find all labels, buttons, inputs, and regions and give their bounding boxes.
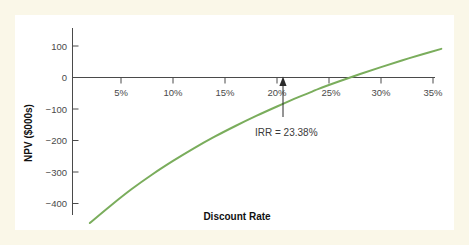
x-tick-marks [121, 78, 433, 84]
x-tick-labels: 5% 10% 15% 20% 25% 30% 35% [114, 87, 443, 98]
x-tick-label-30: 30% [371, 87, 391, 98]
npv-profile-figure: 100 0 −100 −200 −300 −400 5% 10% 15% [0, 0, 469, 245]
y-tick-label-100: 100 [51, 41, 67, 52]
x-axis-title: Discount Rate [203, 211, 271, 222]
plot-area: 100 0 −100 −200 −300 −400 5% 10% 15% [15, 15, 454, 230]
y-tick-label-0: 0 [62, 72, 67, 83]
x-tick-label-25: 25% [321, 87, 341, 98]
y-tick-label-neg100: −100 [46, 104, 67, 115]
npv-chart-svg: 100 0 −100 −200 −300 −400 5% 10% 15% [15, 15, 454, 230]
x-tick-label-10: 10% [163, 87, 183, 98]
x-tick-label-35: 35% [423, 87, 443, 98]
irr-annotation-label: IRR = 23.38% [255, 127, 318, 138]
y-tick-label-neg300: −300 [46, 167, 67, 178]
x-tick-label-5: 5% [114, 87, 128, 98]
axes-group [73, 28, 436, 215]
x-tick-label-20: 20% [267, 87, 287, 98]
y-axis-title: NPV ($000s) [23, 104, 34, 162]
y-tick-label-neg200: −200 [46, 135, 67, 146]
x-tick-label-15: 15% [215, 87, 235, 98]
y-tick-marks [73, 46, 79, 204]
y-tick-labels: 100 0 −100 −200 −300 −400 [46, 41, 67, 210]
y-tick-label-neg400: −400 [46, 198, 67, 209]
